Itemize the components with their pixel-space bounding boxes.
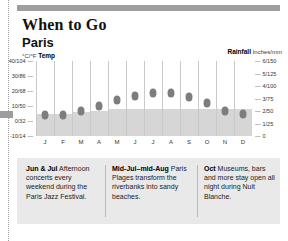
chart-column	[234, 61, 252, 136]
header-band	[17, 5, 280, 11]
rainfall-bar	[181, 109, 198, 137]
right-axis-tick: —2/50	[255, 108, 273, 114]
chart-column	[144, 61, 162, 136]
temperature-marker	[78, 106, 85, 115]
x-axis-month-label: J	[152, 139, 155, 145]
page-root: When to Go Paris °C/°F Temp Rainfall Inc…	[0, 0, 288, 241]
left-axis-tick: 30/86—	[12, 73, 33, 79]
chart-column	[198, 61, 216, 136]
page-margin-rule	[8, 0, 9, 241]
right-axis-legend: Rainfall Inches/mm	[228, 48, 283, 55]
x-axis-month-label: F	[61, 139, 65, 145]
chart-column	[72, 61, 90, 136]
notes-panel: Jun & Jul Afternoon concerts every weeke…	[17, 158, 280, 224]
page-subtitle: Paris	[22, 35, 54, 50]
right-axis-label: Rainfall	[228, 48, 251, 55]
temperature-marker	[114, 96, 121, 105]
page-margin-tab	[0, 111, 13, 118]
x-axis-month-label: M	[115, 139, 120, 145]
x-axis-month-label: S	[187, 139, 191, 145]
left-axis-tick: 0/32—	[15, 118, 33, 124]
note-divider-2	[197, 165, 198, 217]
right-axis-tick: —3/75	[255, 96, 273, 102]
temperature-marker	[186, 93, 193, 102]
temperature-marker	[240, 109, 247, 118]
note-mid-jul-mid-aug-title: Mid-Jul–mid-Aug	[112, 165, 169, 172]
temperature-marker	[168, 88, 175, 97]
right-axis-tick: —1/25	[255, 121, 273, 127]
chart-column	[54, 61, 72, 136]
x-axis-month-label: J	[134, 139, 137, 145]
right-axis-units: Inches/mm	[253, 49, 282, 55]
climate-chart: JFMAMJJASOND40/104—30/86—20/68—10/50—0/3…	[36, 61, 252, 136]
x-axis-month-label: N	[223, 139, 227, 145]
x-axis-month-label: M	[79, 139, 84, 145]
chart-column	[162, 61, 180, 136]
note-jun-jul-title: Jun & Jul	[26, 165, 58, 172]
chart-plot-area: JFMAMJJASOND40/104—30/86—20/68—10/50—0/3…	[36, 61, 252, 136]
left-axis-tick: -10/14—	[10, 133, 33, 139]
chart-column	[216, 61, 234, 136]
rainfall-bar	[163, 109, 180, 137]
right-axis-tick: —4/100	[255, 83, 276, 89]
x-axis-month-label: A	[97, 139, 101, 145]
x-axis-month-label: J	[44, 139, 47, 145]
chart-column	[36, 61, 54, 136]
rainfall-bar	[109, 109, 126, 137]
page-title: When to Go	[22, 16, 107, 34]
left-axis-tick: 10/50—	[12, 103, 33, 109]
rainfall-bar	[145, 109, 162, 137]
chart-column	[108, 61, 126, 136]
x-axis-month-label: D	[241, 139, 245, 145]
note-mid-jul-mid-aug: Mid-Jul–mid-Aug Paris Plages transform t…	[112, 164, 188, 201]
temperature-marker	[150, 88, 157, 97]
chart-column	[126, 61, 144, 136]
note-jun-jul: Jun & Jul Afternoon concerts every weeke…	[26, 164, 98, 201]
left-axis-label: Temp	[38, 52, 55, 59]
note-divider-1	[105, 165, 106, 217]
rainfall-bar	[91, 111, 108, 136]
temperature-marker	[60, 111, 67, 120]
temperature-marker	[222, 106, 229, 115]
temperature-marker	[42, 111, 49, 120]
right-axis-tick: —0	[255, 133, 266, 139]
rainfall-bar	[73, 112, 90, 136]
x-axis-month-label: O	[205, 139, 210, 145]
left-axis-tick: 20/68—	[12, 88, 33, 94]
temperature-marker	[132, 91, 139, 100]
left-axis-tick: 40/104—	[9, 58, 33, 64]
chart-column	[180, 61, 198, 136]
temperature-marker	[204, 99, 211, 108]
note-oct-title: Oct	[204, 165, 216, 172]
note-oct: Oct Museums, bars and more stay open all…	[204, 164, 276, 201]
x-axis-month-label: A	[169, 139, 173, 145]
right-axis-tick: —6/150	[255, 58, 276, 64]
temperature-marker	[96, 102, 103, 111]
right-axis-tick: —5/125	[255, 71, 276, 77]
rainfall-bar	[199, 109, 216, 137]
chart-column	[90, 61, 108, 136]
rainfall-bar	[127, 109, 144, 137]
